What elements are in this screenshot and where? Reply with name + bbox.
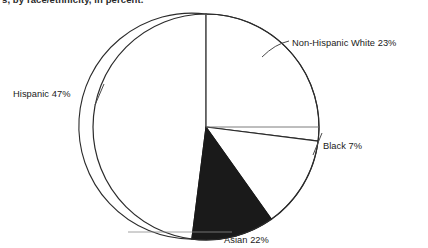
pie-label-non-hispanic-white: Non-Hispanic White 23%	[292, 38, 396, 48]
pie-label-asian: Asian 22%	[224, 235, 269, 245]
pie-label-black: Black 7%	[323, 141, 362, 151]
pie-label-hispanic: Hispanic 47%	[13, 89, 70, 99]
pie-chart-figure: s, by race/ethnicity, in percent. Non-Hi…	[0, 0, 428, 248]
pie-slice-non-hispanic-white[interactable]	[206, 14, 319, 141]
pie-slice-hispanic[interactable]	[79, 13, 206, 239]
